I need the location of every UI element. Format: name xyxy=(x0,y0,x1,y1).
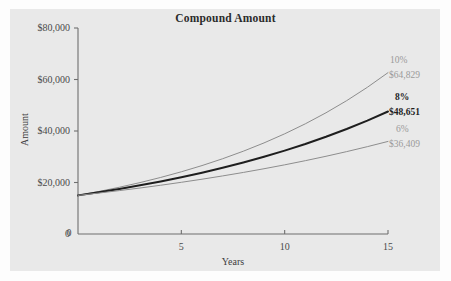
series-label-10-percent: 10% xyxy=(390,55,407,65)
series-value-6-percent: $36,409 xyxy=(389,139,420,149)
compound-amount-chart: Compound Amount 0$20,000$40,000$60,000$8… xyxy=(0,0,451,281)
series-value-10-percent: $64,829 xyxy=(389,70,420,80)
series-value-8-percent: $48,651 xyxy=(389,107,420,117)
y-tick-label: $20,000 xyxy=(8,177,70,188)
y-tick-label: $60,000 xyxy=(8,74,70,85)
x-tick-label: 0 xyxy=(49,227,89,238)
series-label-6-percent: 6% xyxy=(396,124,409,134)
x-tick-label: 5 xyxy=(161,241,201,252)
x-tick-label: 10 xyxy=(265,241,305,252)
y-tick-label: $40,000 xyxy=(8,125,70,136)
y-axis-title: Amount xyxy=(19,100,30,160)
x-axis-title: Years xyxy=(203,256,263,267)
x-tick-label: 15 xyxy=(368,241,408,252)
series-lines-group xyxy=(78,73,388,196)
y-tick-label: $80,000 xyxy=(8,22,70,33)
series-line-10pct xyxy=(78,73,388,196)
series-label-8-percent: 8% xyxy=(395,92,409,102)
series-line-8pct xyxy=(78,111,388,195)
